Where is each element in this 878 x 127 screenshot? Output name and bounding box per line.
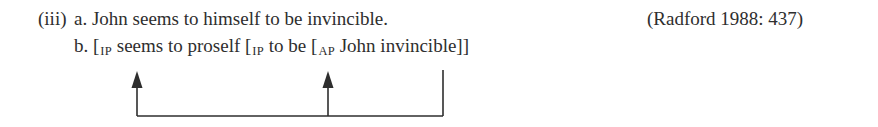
movement-diagram bbox=[0, 0, 878, 127]
arrow-up-icon bbox=[323, 71, 334, 88]
arrow-up-icon bbox=[132, 71, 143, 88]
